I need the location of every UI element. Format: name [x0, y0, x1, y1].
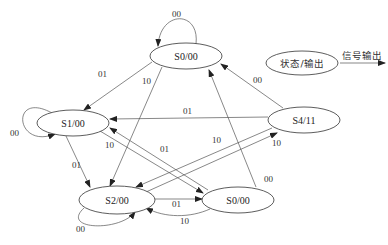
node-label: S1/00: [61, 118, 84, 129]
edge-label: 01: [172, 199, 181, 209]
edge-label: 10: [272, 138, 282, 148]
edge-label: 00: [10, 128, 20, 138]
edge-s0bottom-s2: [146, 208, 210, 216]
legend-node-label: 状态/输出: [280, 58, 323, 69]
edge-s0top-s1: [84, 62, 152, 110]
edge-s1-s0bottom: [100, 131, 203, 193]
edge-s4-s1: [110, 117, 268, 119]
node-s4: S4/11: [268, 107, 340, 133]
edge-label: 10: [142, 76, 152, 86]
legend-arrow-label: 信号输出: [342, 50, 382, 61]
edge-label: 10: [180, 216, 190, 226]
node-label: S0/00: [174, 51, 197, 62]
edge-label: 01: [183, 106, 192, 116]
node-label: S4/11: [293, 115, 316, 126]
node-label: S0/00: [226, 195, 249, 206]
node-s0-bottom: S0/00: [202, 187, 274, 213]
legend: 状态/输出 信号输出: [266, 50, 385, 75]
edge-label: 00: [76, 224, 86, 234]
state-diagram: S0/00 S1/00 S4/11 S2/00 S0/00 00 01 10 0…: [0, 0, 388, 245]
edge-s0bottom-s1: [110, 128, 208, 190]
edge-s0top-s2: [110, 67, 162, 186]
node-label: S2/00: [105, 195, 128, 206]
edge-label: 01: [98, 69, 107, 79]
node-s1: S1/00: [37, 110, 109, 136]
edge-label: 01: [160, 144, 169, 154]
node-s0-top: S0/00: [150, 43, 222, 69]
edge-s0top-self: [158, 19, 196, 46]
edge-label: 10: [212, 135, 222, 145]
edge-label: 00: [172, 9, 182, 19]
edge-label: 10: [105, 140, 115, 150]
edge-label: 00: [264, 174, 274, 184]
edge-label: 01: [72, 160, 81, 170]
state-diagram-svg: S0/00 S1/00 S4/11 S2/00 S0/00 00 01 10 0…: [0, 0, 388, 245]
edge-s0bottom-s0top: [209, 70, 256, 187]
node-s2: S2/00: [79, 186, 155, 214]
edge-label: 00: [253, 75, 263, 85]
